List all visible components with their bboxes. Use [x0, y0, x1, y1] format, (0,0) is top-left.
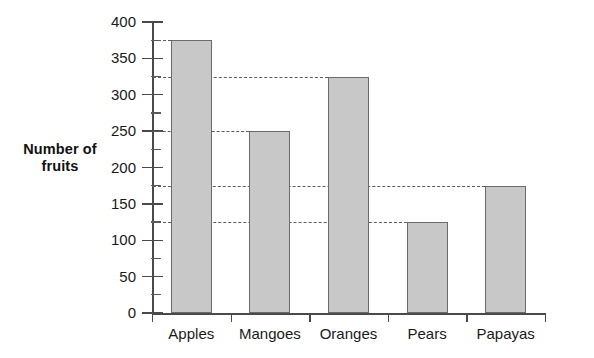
x-tick [231, 313, 232, 322]
y-tick-minor [151, 149, 161, 150]
y-tick-major [142, 167, 163, 168]
y-tick-major [142, 21, 163, 22]
plot-area: 050100150200250300350400 ApplesMangoesOr… [152, 22, 545, 313]
bar-mangoes [249, 131, 290, 313]
y-tick-label: 400 [94, 14, 136, 29]
x-label-mangoes: Mangoes [231, 325, 310, 342]
y-tick-label: 250 [94, 123, 136, 138]
y-tick-label: 350 [94, 50, 136, 65]
x-axis-line [152, 313, 545, 315]
x-tick [545, 313, 546, 322]
bar-apples [171, 40, 212, 313]
y-tick-label: 100 [94, 232, 136, 247]
leader-line [153, 40, 171, 41]
x-tick [152, 313, 153, 322]
y-tick-label: 50 [94, 269, 136, 284]
y-tick-major [142, 203, 163, 204]
y-tick-label: 200 [94, 160, 136, 175]
y-tick-major [142, 94, 163, 95]
y-tick-minor [151, 112, 161, 113]
bar-pears [407, 222, 448, 313]
y-tick-label: 300 [94, 87, 136, 102]
x-label-papayas: Papayas [466, 325, 545, 342]
bar-papayas [485, 186, 526, 313]
y-tick-label: 150 [94, 196, 136, 211]
y-tick-major [142, 276, 163, 277]
x-label-pears: Pears [388, 325, 467, 342]
y-tick-label: 0 [94, 305, 136, 320]
bar-chart: Number of fruits 05010015020025030035040… [0, 0, 594, 358]
x-label-oranges: Oranges [309, 325, 388, 342]
bar-oranges [328, 77, 369, 313]
y-axis-title-line-1: Number of [6, 141, 114, 158]
y-tick-major [142, 58, 163, 59]
x-label-apples: Apples [152, 325, 231, 342]
x-tick [466, 313, 467, 322]
y-tick-minor [151, 258, 161, 259]
x-tick [388, 313, 389, 322]
y-tick-major [142, 240, 163, 241]
x-tick [309, 313, 310, 322]
y-tick-minor [151, 294, 161, 295]
